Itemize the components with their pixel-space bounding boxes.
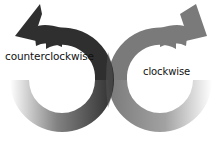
counterclockwise-label: counterclockwise bbox=[5, 50, 94, 62]
counterclockwise-arrow bbox=[10, 4, 114, 132]
clockwise-label: clockwise bbox=[143, 66, 190, 77]
